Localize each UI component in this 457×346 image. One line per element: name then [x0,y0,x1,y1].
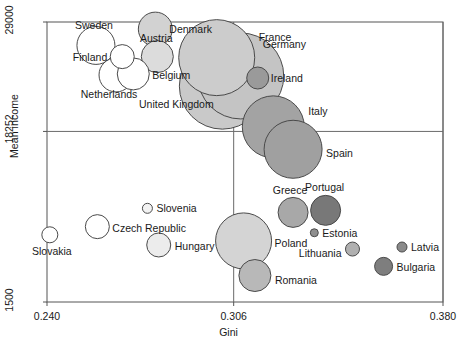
bubble-label-hungary: Hungary [175,240,215,252]
bubble-label-estonia: Estonia [322,227,357,239]
bubble-finland[interactable] [110,45,134,69]
bubble-estonia[interactable] [310,229,318,237]
bubble-hungary[interactable] [147,233,171,257]
bubble-label-bulgaria: Bulgaria [397,261,436,273]
bubble-label-italy: Italy [308,105,328,117]
bubble-label-sweden: Sweden [75,19,113,31]
bubble-label-united-kingdom: United Kingdom [139,98,214,110]
bubble-label-latvia: Latvia [411,241,439,253]
bubble-label-czech-republic: Czech Republic [112,222,186,234]
bubble-ireland[interactable] [247,67,269,89]
bubble-label-greece: Greece [273,184,308,196]
bubble-portugal[interactable] [311,195,341,225]
bubble-label-ireland: Ireland [271,72,303,84]
bubble-label-portugal: Portugal [305,181,344,193]
bubble-label-romania: Romania [275,274,317,286]
bubble-lithuania[interactable] [345,242,359,256]
bubble-spain[interactable] [264,120,322,178]
bubble-greece[interactable] [278,197,308,227]
bubble-label-slovenia: Slovenia [156,202,196,214]
bubble-label-slovakia: Slovakia [32,245,72,257]
bubble-label-finland: Finland [73,51,108,63]
bubble-bulgaria[interactable] [375,257,393,275]
bubble-czech-republic[interactable] [85,215,109,239]
bubble-slovenia[interactable] [142,203,152,213]
bubble-label-belgium: Belgium [152,69,190,81]
plot-area: SwedenDenmarkAustriaFinlandBelgiumNether… [0,0,457,346]
bubble-poland[interactable] [216,213,272,269]
bubble-romania[interactable] [239,260,271,292]
bubble-label-germany: Germany [263,38,307,50]
bubble-label-lithuania: Lithuania [299,247,342,259]
bubble-slovakia[interactable] [42,227,58,243]
bubble-label-spain: Spain [326,147,353,159]
bubble-label-austria: Austria [140,32,173,44]
bubble-label-denmark: Denmark [169,23,212,35]
bubble-label-netherlands: Netherlands [81,88,138,100]
bubble-chart-figure: Mean income 29000 18252 1500 0.240 0.306… [0,0,457,346]
bubble-latvia[interactable] [397,242,407,252]
